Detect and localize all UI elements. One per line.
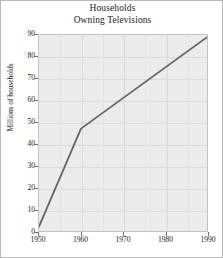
x-axis-tick-mark — [166, 232, 167, 236]
x-axis-tick-label: 1980 — [146, 236, 186, 244]
x-axis-tick-mark — [208, 232, 209, 236]
x-axis-tick-mark — [81, 232, 82, 236]
x-axis-tick-labels: 19501960197019801990 — [1, 1, 223, 258]
x-axis-tick-label: 1970 — [103, 236, 143, 244]
x-axis-tick-label: 1960 — [61, 236, 101, 244]
x-axis-tick-mark — [123, 232, 124, 236]
x-axis-tick-label: 1990 — [188, 236, 223, 244]
x-axis-tick-label: 1950 — [18, 236, 58, 244]
chart-figure: Households Owning Televisions Millions o… — [0, 0, 223, 258]
x-axis-tick-mark — [38, 232, 39, 236]
